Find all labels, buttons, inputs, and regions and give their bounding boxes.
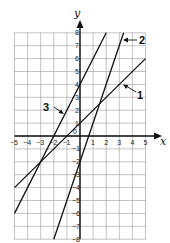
x-tick-label: 3 <box>117 139 121 146</box>
y-tick-label: 6 <box>75 55 79 62</box>
y-tick-label: −7 <box>72 223 80 230</box>
line-1-pointer <box>126 86 136 92</box>
y-tick-label: 8 <box>75 29 79 36</box>
line-3-label: 3 <box>43 101 49 113</box>
y-tick-label: −6 <box>72 210 80 217</box>
x-tick-label: −4 <box>23 139 31 146</box>
coordinate-plane-chart: x y −5−4−3−2−101234587654321−1−2−3−4−5−6… <box>0 0 170 243</box>
line-2-pointer-arrow-icon <box>123 38 128 43</box>
y-tick-label: 3 <box>75 94 79 101</box>
x-tick-label: −5 <box>10 139 18 146</box>
y-tick-label: −8 <box>72 236 80 243</box>
x-tick-label: 5 <box>144 139 148 146</box>
line-2-label: 2 <box>139 34 145 46</box>
x-tick-label: 2 <box>104 139 108 146</box>
y-tick-label: −4 <box>72 184 80 191</box>
x-tick-label: 1 <box>91 139 95 146</box>
line-1-label: 1 <box>137 89 143 101</box>
y-tick-label: 7 <box>75 42 79 49</box>
x-axis-label: x <box>160 135 167 148</box>
y-tick-label: −5 <box>72 197 80 204</box>
y-axis-arrow-icon <box>77 20 84 28</box>
y-tick-label: 2 <box>75 107 79 114</box>
x-tick-label: −3 <box>36 139 44 146</box>
y-axis-label: y <box>73 7 81 20</box>
x-tick-label: 4 <box>130 139 134 146</box>
y-tick-label: 5 <box>75 68 79 75</box>
y-tick-label: −1 <box>72 145 80 152</box>
